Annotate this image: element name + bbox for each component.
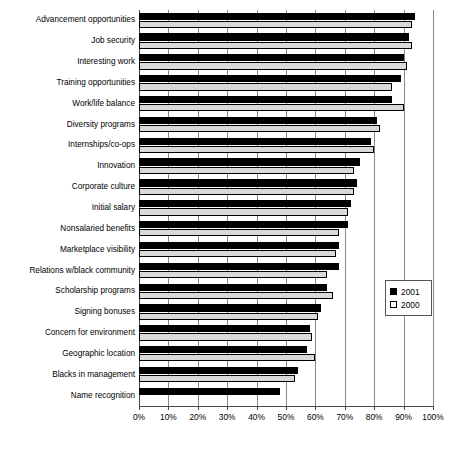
bar-2000 [139, 333, 312, 340]
gridline-100 [433, 10, 434, 406]
bar-2000 [139, 104, 404, 111]
x-tick [286, 406, 287, 410]
chart-row: Advancement opportunities [139, 10, 433, 31]
x-tick-label: 100% [413, 412, 453, 423]
category-label: Scholarship programs [0, 286, 135, 296]
x-tick [257, 406, 258, 410]
bar-2001 [139, 54, 404, 61]
bar-2000 [139, 146, 374, 153]
chart-row: Training opportunities [139, 73, 433, 94]
category-label: Job security [0, 36, 135, 46]
bar-chart: Advancement opportunitiesJob securityInt… [0, 0, 462, 466]
chart-row: Geographic location [139, 343, 433, 364]
bar-2000 [139, 292, 333, 299]
bar-2000 [139, 208, 348, 215]
bar-2000 [139, 375, 295, 382]
bar-2001 [139, 33, 409, 40]
category-label: Internships/co-ops [0, 140, 135, 150]
bar-2001 [139, 96, 392, 103]
bar-2001 [139, 388, 280, 395]
legend-swatch-2000 [390, 301, 397, 308]
chart-row: Job security [139, 31, 433, 52]
bar-2001 [139, 13, 415, 20]
bar-2001 [139, 263, 339, 270]
x-tick [345, 406, 346, 410]
bar-2001 [139, 221, 348, 228]
chart-row: Concern for environment [139, 323, 433, 344]
chart-row: Name recognition [139, 385, 433, 406]
bar-2000 [139, 271, 327, 278]
bar-2001 [139, 304, 321, 311]
category-label: Blacks in management [0, 370, 135, 380]
bar-2000 [139, 313, 318, 320]
legend-entry: 2001 [390, 285, 427, 298]
chart-row: Blacks in management [139, 364, 433, 385]
bar-2000 [139, 125, 380, 132]
category-label: Training opportunities [0, 78, 135, 88]
category-label: Nonsalaried benefits [0, 224, 135, 234]
chart-row: Initial salary [139, 198, 433, 219]
bar-2001 [139, 117, 377, 124]
chart-row: Diversity programs [139, 114, 433, 135]
category-label: Signing bonuses [0, 307, 135, 317]
chart-row: Marketplace visibility [139, 239, 433, 260]
bar-2001 [139, 200, 351, 207]
x-tick [315, 406, 316, 410]
legend-label: 2000 [401, 300, 420, 310]
bar-2000 [139, 83, 392, 90]
legend-label: 2001 [401, 287, 420, 297]
category-label: Geographic location [0, 349, 135, 359]
x-tick [139, 406, 140, 410]
bar-2001 [139, 242, 339, 249]
bar-2000 [139, 62, 407, 69]
bar-2000 [139, 167, 354, 174]
category-label: Diversity programs [0, 120, 135, 130]
chart-row: Internships/co-ops [139, 135, 433, 156]
bar-2000 [139, 188, 354, 195]
bar-2000 [139, 21, 412, 28]
x-tick [227, 406, 228, 410]
bar-2000 [139, 42, 412, 49]
bar-2001 [139, 138, 371, 145]
category-label: Relations w/black community [0, 266, 135, 276]
category-label: Name recognition [0, 391, 135, 401]
x-tick [374, 406, 375, 410]
chart-row: Corporate culture [139, 177, 433, 198]
bar-2001 [139, 284, 327, 291]
bar-2001 [139, 325, 310, 332]
chart-row: Work/life balance [139, 93, 433, 114]
chart-row: Innovation [139, 156, 433, 177]
x-tick [433, 406, 434, 410]
category-label: Interesting work [0, 57, 135, 67]
bar-2000 [139, 250, 336, 257]
bar-2000 [139, 354, 315, 361]
category-label: Innovation [0, 161, 135, 171]
category-label: Concern for environment [0, 328, 135, 338]
x-tick [168, 406, 169, 410]
chart-row: Relations w/black community [139, 260, 433, 281]
bar-2001 [139, 179, 357, 186]
plot-area: Advancement opportunitiesJob securityInt… [139, 10, 433, 406]
bar-2001 [139, 158, 360, 165]
bar-2001 [139, 75, 401, 82]
chart-row: Interesting work [139, 52, 433, 73]
category-label: Advancement opportunities [0, 15, 135, 25]
legend-swatch-2001 [390, 288, 397, 295]
category-label: Initial salary [0, 203, 135, 213]
category-label: Marketplace visibility [0, 245, 135, 255]
category-label: Corporate culture [0, 182, 135, 192]
bar-2000 [139, 229, 339, 236]
bar-2001 [139, 367, 298, 374]
chart-legend: 20012000 [385, 280, 432, 316]
category-label: Work/life balance [0, 99, 135, 109]
bar-2001 [139, 346, 307, 353]
x-tick [198, 406, 199, 410]
chart-row: Nonsalaried benefits [139, 218, 433, 239]
legend-entry: 2000 [390, 298, 427, 311]
x-tick [404, 406, 405, 410]
